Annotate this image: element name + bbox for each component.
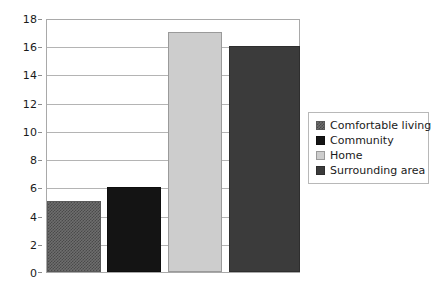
y-tick-label: 14 <box>0 70 42 81</box>
y-tick-label: 8 <box>0 155 42 166</box>
legend-swatch-icon <box>316 151 325 160</box>
bar-surrounding-area <box>229 46 300 272</box>
legend: Comfortable living Community Home Surrou… <box>308 112 429 184</box>
y-tick-mark <box>38 19 42 20</box>
y-tick-mark <box>38 272 42 273</box>
bar-community <box>107 187 161 272</box>
legend-item-comfortable-living: Comfortable living <box>316 118 422 132</box>
y-tick-mark <box>38 75 42 76</box>
legend-swatch-icon <box>316 136 325 145</box>
y-tick-mark <box>38 47 42 48</box>
y-tick-label: 10 <box>0 126 42 137</box>
legend-item-community: Community <box>316 133 422 147</box>
legend-swatch-icon <box>316 166 325 175</box>
y-tick-mark <box>38 104 42 105</box>
legend-item-label: Community <box>330 135 394 146</box>
y-axis: 18 16 14 12 10 8 6 4 2 0 <box>0 19 42 273</box>
y-tick-label: 6 <box>0 183 42 194</box>
y-tick-label: 0 <box>0 268 42 279</box>
legend-item-label: Home <box>330 150 362 161</box>
y-tick-label: 16 <box>0 42 42 53</box>
y-tick-mark <box>38 217 42 218</box>
y-tick-label: 4 <box>0 211 42 222</box>
legend-item-label: Surrounding area <box>330 165 425 176</box>
y-tick-mark <box>38 132 42 133</box>
bar-home <box>168 32 222 272</box>
legend-item-home: Home <box>316 148 422 162</box>
y-tick-mark <box>38 245 42 246</box>
plot-area <box>46 19 300 273</box>
y-tick-label: 2 <box>0 239 42 250</box>
bar-comfortable-living <box>47 201 101 272</box>
y-tick-label: 18 <box>0 14 42 25</box>
y-tick-mark <box>38 160 42 161</box>
legend-item-label: Comfortable living <box>330 120 431 131</box>
bar-chart: 18 16 14 12 10 8 6 4 2 0 <box>0 0 445 289</box>
legend-swatch-icon <box>316 121 325 130</box>
y-tick-mark <box>38 188 42 189</box>
y-tick-label: 12 <box>0 98 42 109</box>
legend-item-surrounding-area: Surrounding area <box>316 163 422 177</box>
